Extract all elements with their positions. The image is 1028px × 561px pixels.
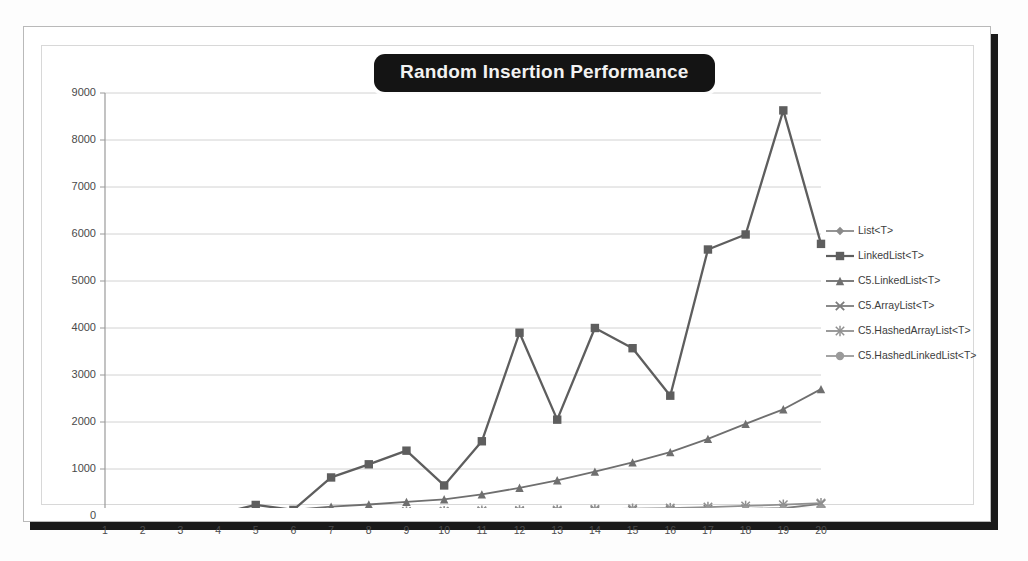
x-tick-label: 15	[617, 524, 649, 536]
axis-lines	[100, 93, 821, 508]
legend-item-1[interactable]: LinkedList<T>	[825, 243, 1005, 268]
y-tick-label: 5000	[42, 274, 96, 286]
x-tick-label: 7	[315, 524, 347, 536]
series-2	[101, 385, 825, 508]
y-tick-label: 8000	[42, 133, 96, 145]
grid-lines	[105, 93, 821, 508]
x-tick-label: 10	[428, 524, 460, 536]
y-tick-label: 2000	[42, 415, 96, 427]
legend-marker-icon	[825, 325, 855, 337]
y-tick-label: 0	[42, 509, 96, 521]
series-1	[101, 106, 825, 508]
screenshot-root: 0100020003000400050006000700080009000 12…	[0, 0, 1028, 561]
legend-item-label: C5.LinkedList<T>	[858, 275, 940, 286]
y-tick-label: 9000	[42, 86, 96, 98]
x-tick-label: 14	[579, 524, 611, 536]
legend-item-3[interactable]: C5.ArrayList<T>	[825, 293, 1005, 318]
legend-item-label: C5.HashedLinkedList<T>	[858, 350, 977, 361]
x-tick-label: 11	[466, 524, 498, 536]
y-tick-label: 4000	[42, 321, 96, 333]
legend-item-label: List<T>	[858, 225, 893, 236]
legend-item-label: LinkedList<T>	[858, 250, 924, 261]
y-tick-label: 6000	[42, 227, 96, 239]
legend-marker-icon	[825, 350, 855, 362]
x-tick-label: 8	[353, 524, 385, 536]
x-tick-label: 5	[240, 524, 272, 536]
x-tick-label: 4	[202, 524, 234, 536]
legend-marker-icon	[825, 300, 855, 312]
chart-legend: List<T>LinkedList<T>C5.LinkedList<T>C5.A…	[825, 218, 1005, 368]
legend-marker-icon	[825, 275, 855, 287]
legend-item-label: C5.HashedArrayList<T>	[858, 325, 971, 336]
x-tick-label: 2	[127, 524, 159, 536]
legend-item-label: C5.ArrayList<T>	[858, 300, 934, 311]
x-tick-label: 9	[390, 524, 422, 536]
plot-area-frame: 0100020003000400050006000700080009000 12…	[41, 45, 974, 505]
x-tick-label: 13	[541, 524, 573, 536]
x-tick-label: 17	[692, 524, 724, 536]
x-tick-label: 16	[654, 524, 686, 536]
x-tick-label: 20	[805, 524, 837, 536]
x-tick-label: 6	[277, 524, 309, 536]
y-tick-label: 1000	[42, 462, 96, 474]
legend-marker-icon	[825, 225, 855, 237]
y-tick-label: 3000	[42, 368, 96, 380]
legend-item-2[interactable]: C5.LinkedList<T>	[825, 268, 1005, 293]
x-tick-label: 3	[164, 524, 196, 536]
y-tick-label: 7000	[42, 180, 96, 192]
legend-item-4[interactable]: C5.HashedArrayList<T>	[825, 318, 1005, 343]
legend-item-0[interactable]: List<T>	[825, 218, 1005, 243]
x-tick-label: 1	[89, 524, 121, 536]
legend-marker-icon	[825, 250, 855, 262]
series-4	[101, 498, 825, 508]
chart-title: Random Insertion Performance	[374, 54, 715, 92]
x-tick-label: 12	[504, 524, 536, 536]
x-tick-label: 18	[730, 524, 762, 536]
legend-item-5[interactable]: C5.HashedLinkedList<T>	[825, 343, 1005, 368]
chart-card: 0100020003000400050006000700080009000 12…	[23, 26, 991, 522]
x-tick-label: 19	[767, 524, 799, 536]
